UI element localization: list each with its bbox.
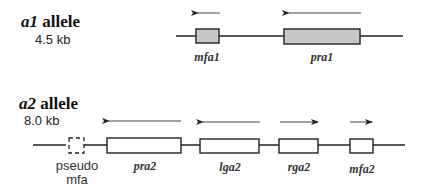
pra2-label: pra2 — [120, 159, 170, 174]
mfa1-gene-box — [196, 29, 219, 43]
pra1-gene-box — [284, 29, 360, 44]
pseudo-mfa-label: pseudomfa — [54, 159, 100, 187]
rga2-gene-box — [279, 139, 318, 153]
pseudo-mfa-box — [69, 138, 84, 153]
mfa1-label: mfa1 — [187, 50, 227, 65]
rga2-label: rga2 — [274, 160, 324, 175]
mfa2-label: mfa2 — [337, 162, 387, 177]
lga2-gene-box — [200, 139, 259, 153]
lga2-label: lga2 — [205, 160, 255, 175]
pra2-gene-box — [107, 138, 181, 153]
pra1-label: pra1 — [297, 50, 347, 65]
mfa2-gene-box — [350, 139, 373, 153]
